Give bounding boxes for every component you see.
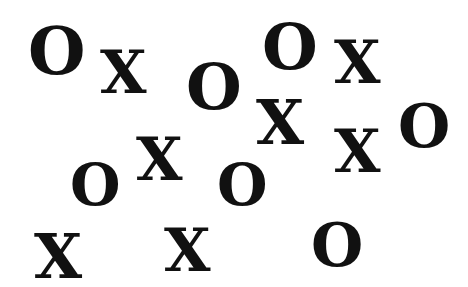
letter-o: O <box>70 156 121 214</box>
letter-x: X <box>164 220 211 280</box>
letter-x: X <box>334 121 381 181</box>
letter-o: O <box>262 15 318 79</box>
letter-x: X <box>256 92 304 154</box>
letter-o: O <box>398 96 450 156</box>
letter-x: X <box>100 42 147 102</box>
letter-o: O <box>186 55 242 119</box>
letter-o: O <box>217 156 268 214</box>
tic-tac-toe-letters-canvas: OXOOXXOXXOOXXO <box>0 0 468 287</box>
letter-x: X <box>334 32 381 92</box>
letter-x: X <box>34 226 82 287</box>
letter-x: X <box>136 129 183 189</box>
letter-o: O <box>28 18 86 84</box>
letter-o: O <box>311 215 363 275</box>
